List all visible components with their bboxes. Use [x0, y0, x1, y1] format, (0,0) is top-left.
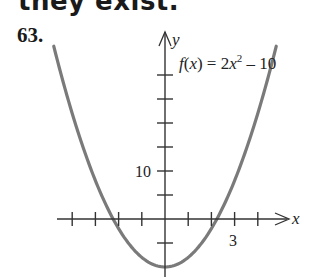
x-axis [57, 213, 289, 225]
function-label: f(x) = 2x2 – 10 [179, 52, 276, 73]
y-tick-label-10: 10 [135, 163, 151, 180]
y-axis-label: y [170, 30, 180, 49]
x-axis-label: x [291, 209, 300, 228]
function-label-suffix: – 10 [242, 54, 276, 73]
y-axis [159, 32, 171, 277]
parabola-chart: y x 10 3 f(x) = 2x2 – 10 [0, 0, 314, 277]
x-tick-label-3: 3 [229, 232, 237, 249]
